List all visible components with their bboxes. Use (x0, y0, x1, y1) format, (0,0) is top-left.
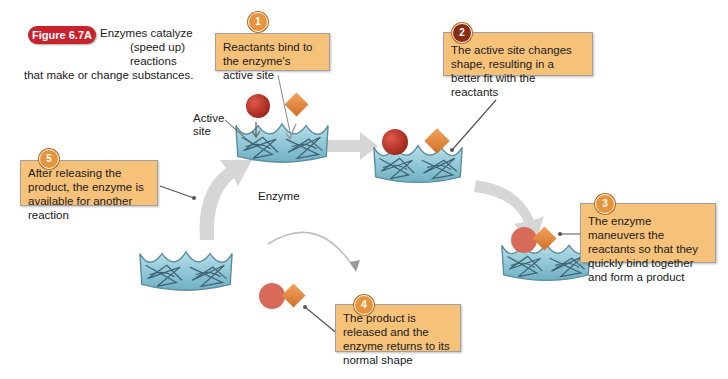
reactant-diamond (284, 92, 308, 116)
step-5-callout: 5 After releasing the product, the enzym… (20, 160, 158, 206)
step-3-callout: 3 The enzyme maneuvers the reactants so … (580, 203, 716, 263)
active-site-label: Active site (193, 112, 224, 138)
step-2-number: 2 (452, 23, 472, 43)
step-3-number: 3 (595, 194, 615, 214)
step-4-callout: 4 The product is released and the enzyme… (335, 304, 461, 352)
enzyme-label: Enzyme (258, 190, 300, 203)
step-2-callout: 2 The active site changes shape, resulti… (443, 32, 593, 76)
product-circle (259, 283, 285, 309)
product-diamond (281, 283, 305, 307)
enzyme-state-1 (236, 124, 328, 162)
step-1-callout: 1 Reactants bind to the enzyme's active … (215, 33, 330, 71)
reactant-circle (246, 94, 270, 118)
enzyme-state-4 (140, 252, 232, 290)
step-1-number: 1 (248, 12, 268, 32)
figure-caption: Enzymes catalyze (speed up) reactions th… (24, 26, 224, 82)
step-5-number: 5 (39, 149, 59, 169)
step-4-number: 4 (354, 295, 374, 315)
release-arrow (268, 232, 354, 268)
